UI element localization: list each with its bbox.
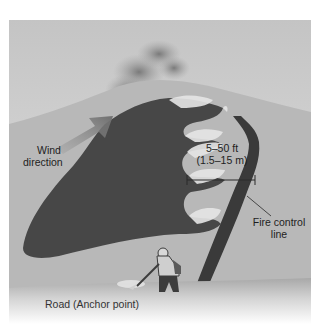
wildfire-diagram: Wind direction 5–50 ft (1.5–15 m) Fire c… [9,20,311,324]
wind-direction-label-line2: direction [23,156,75,168]
fire-control-line-label: Fire control line [249,216,309,240]
fire-control-label-line1: Fire control [249,216,309,228]
distance-label-ft: 5–50 ft [187,142,257,154]
wind-direction-label: Wind direction [23,144,75,168]
distance-label-m: (1.5–15 m) [187,154,257,166]
distance-label: 5–50 ft (1.5–15 m) [187,142,257,166]
fire-control-label-line2: line [249,228,309,240]
diagram-illustration [9,20,311,324]
wind-direction-label-line1: Wind [23,144,75,156]
road-label: Road (Anchor point) [45,298,139,310]
